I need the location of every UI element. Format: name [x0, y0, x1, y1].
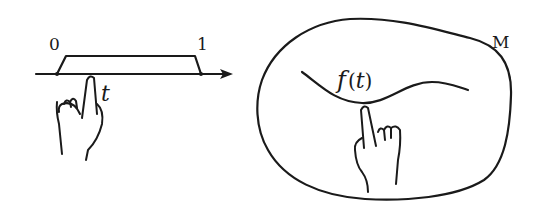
curve-label: f(t) — [335, 66, 372, 94]
parameter-t-label: t — [101, 81, 110, 106]
interval-end-point — [199, 72, 203, 76]
pointing-hand-icon — [57, 76, 103, 160]
interval-end-label: 1 — [197, 34, 208, 54]
curve-f — [302, 72, 468, 103]
interval-trapezoid — [57, 56, 201, 74]
diagram-canvas: 0 1 t M f(t) — [0, 0, 542, 209]
interval-start-point — [55, 72, 59, 76]
interval-start-label: 0 — [49, 34, 60, 54]
manifold-outline — [257, 19, 511, 200]
pointing-hand-icon-right — [355, 106, 400, 192]
curve-label-close-paren: ) — [365, 69, 373, 93]
manifold-label: M — [492, 32, 509, 52]
left-panel: 0 1 t — [36, 34, 233, 160]
curve-label-open-paren: ( — [348, 69, 356, 93]
curve-label-t: t — [356, 68, 365, 93]
right-panel: M f(t) — [257, 19, 511, 200]
